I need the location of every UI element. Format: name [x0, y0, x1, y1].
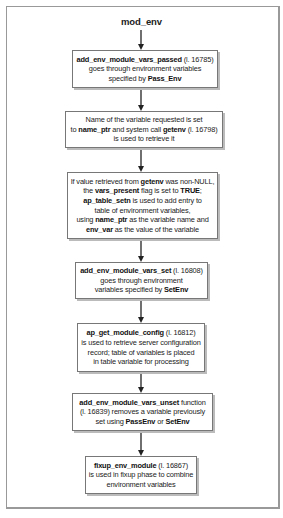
text-segment: ; — [200, 186, 202, 195]
code-identifier: SetEnv — [165, 417, 189, 426]
text-segment: record; table of variables is placed — [88, 348, 195, 357]
step-box-module-config: ap_get_module_config (l. 16812)is used t… — [77, 323, 205, 372]
text-segment: is used to add entry to — [131, 196, 202, 205]
step-box-vars-unset: add_env_module_vars_unset function(l. 16… — [72, 393, 213, 431]
step-text-line: the vars_present flag is set to TRUE; — [70, 186, 215, 196]
code-identifier: vars_present — [95, 186, 139, 195]
step-text-line: add_env_module_vars_set (l. 16808) — [78, 266, 205, 276]
text-segment: table of environment variables, — [94, 206, 190, 215]
step-box-fixup: fixup_env_module (l. 16867)is used in fi… — [85, 456, 197, 494]
step-text-line: ap_table_setn is used to add entry to — [70, 196, 215, 206]
step-text-line: record; table of variables is placed — [80, 348, 202, 358]
text-segment: is used to retrieve server configuration — [81, 338, 200, 347]
text-segment: function — [179, 398, 206, 407]
text-segment: Name of the variable requested is set — [86, 115, 203, 124]
code-identifier: Pass_Env — [148, 74, 182, 83]
step-text-line: add_env_module_vars_passed (l. 16785) — [75, 55, 215, 65]
step-text-line: If value retrieved from getenv was non-N… — [70, 177, 215, 187]
text-segment: (l. 16839) removes a variable previously — [80, 407, 205, 416]
text-segment: (l. 16808) — [171, 266, 203, 275]
code-identifier: getenv — [141, 177, 164, 186]
code-identifier: name_ptr — [95, 215, 127, 224]
step-text-line: fixup_env_module (l. 16867) — [88, 461, 194, 471]
step-text-line: table of environment variables, — [70, 206, 215, 216]
step-text-line: to name_ptr and system call getenv (l. 1… — [68, 125, 220, 135]
text-segment: flag is set to — [139, 186, 180, 195]
step-text-line: using name_ptr as the variable name and — [70, 215, 215, 225]
step-box-vars-passed: add_env_module_vars_passed (l. 16785)goe… — [72, 50, 218, 88]
step-text-line: is used to retrieve it — [68, 134, 220, 144]
text-segment: as the variable name and — [127, 215, 208, 224]
step-text-line: add_env_module_vars_unset function — [75, 398, 210, 408]
step-text-line: is used in fixup phase to combine — [88, 470, 194, 480]
code-identifier: env_var — [86, 225, 113, 234]
code-identifier: add_env_module_vars_set — [80, 266, 171, 275]
text-segment: (l. 16867) — [156, 461, 188, 470]
step-box-table-setn: If value retrieved from getenv was non-N… — [67, 172, 218, 239]
code-identifier: add_env_module_vars_unset — [79, 398, 179, 407]
text-segment: using — [76, 215, 95, 224]
code-identifier: add_env_module_vars_passed — [76, 55, 181, 64]
step-text-line: goes through environment — [78, 276, 205, 286]
text-segment: in table variable for processing — [93, 357, 188, 366]
step-text-line: variables specified by SetEnv — [78, 285, 205, 295]
step-text-line: ap_get_module_config (l. 16812) — [80, 328, 202, 338]
step-text-line: specified by Pass_Env — [75, 74, 215, 84]
step-text-line: Name of the variable requested is set — [68, 115, 220, 125]
code-identifier: name_ptr — [78, 125, 110, 134]
code-identifier: SetEnv — [164, 285, 188, 294]
text-segment: goes through environment variables — [89, 64, 201, 73]
text-segment: is used in fixup phase to combine — [89, 470, 193, 479]
text-segment: If value retrieved from — [71, 177, 141, 186]
text-segment: (l. 16798) — [186, 125, 218, 134]
step-text-line: in table variable for processing — [80, 357, 202, 367]
step-text-line: (l. 16839) removes a variable previously — [75, 407, 210, 417]
code-identifier: TRUE — [180, 186, 200, 195]
code-identifier: PassEnv — [126, 417, 156, 426]
text-segment: (l. 16785) — [182, 55, 214, 64]
text-segment: or — [155, 417, 165, 426]
step-box-getenv: Name of the variable requested is setto … — [65, 111, 223, 148]
text-segment: specified by — [109, 74, 148, 83]
text-segment: was non-NULL, — [163, 177, 214, 186]
step-text-line: environment variables — [88, 480, 194, 490]
code-identifier: fixup_env_module — [94, 461, 157, 470]
code-identifier: ap_table_setn — [83, 196, 130, 205]
step-text-line: env_var as the value of the variable — [70, 225, 215, 235]
code-identifier: getenv — [163, 125, 186, 134]
step-text-line: set using PassEnv or SetEnv — [75, 417, 210, 427]
text-segment: the — [83, 186, 95, 195]
text-segment: goes through environment — [100, 276, 182, 285]
text-segment: and system call — [110, 125, 163, 134]
step-box-vars-set: add_env_module_vars_set (l. 16808)goes t… — [75, 262, 208, 299]
step-text-line: goes through environment variables — [75, 64, 215, 74]
step-text-line: is used to retrieve server configuration — [80, 338, 202, 348]
text-segment: is used to retrieve it — [114, 134, 175, 143]
text-segment: (l. 16812) — [164, 328, 196, 337]
text-segment: environment variables — [106, 480, 175, 489]
text-segment: set using — [95, 417, 125, 426]
text-segment: variables specified by — [95, 285, 164, 294]
code-identifier: ap_get_module_config — [86, 328, 164, 337]
text-segment: as the value of the variable — [113, 225, 199, 234]
